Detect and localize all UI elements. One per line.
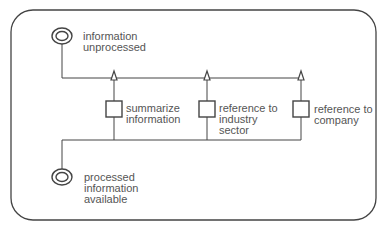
- task-box-company: [293, 101, 309, 117]
- label-line: available: [84, 194, 138, 205]
- start-state-icon: [52, 28, 72, 44]
- label-line: company: [314, 115, 373, 126]
- arrow-up-icon: [298, 71, 304, 80]
- arrow-up-icon: [204, 71, 210, 80]
- task-company-label: reference to company: [314, 104, 373, 126]
- end-state-icon: [52, 169, 72, 185]
- task-industry-label: reference to industry sector: [219, 103, 278, 136]
- task-summarize-label: summarize information: [126, 103, 180, 125]
- task-box-summarize: [106, 101, 122, 117]
- start-state-label: information unprocessed: [83, 31, 146, 53]
- end-state-label: processed information available: [84, 172, 138, 205]
- label-line: information: [126, 114, 180, 125]
- label-line: sector: [219, 125, 278, 136]
- arrow-up-icon: [111, 71, 117, 80]
- task-box-industry: [199, 101, 215, 117]
- label-line: unprocessed: [83, 42, 146, 53]
